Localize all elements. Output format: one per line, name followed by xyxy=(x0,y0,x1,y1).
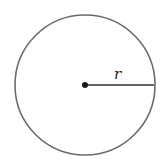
circle-diagram: r xyxy=(0,0,164,162)
radius-label: r xyxy=(114,65,122,83)
center-point xyxy=(82,82,88,88)
